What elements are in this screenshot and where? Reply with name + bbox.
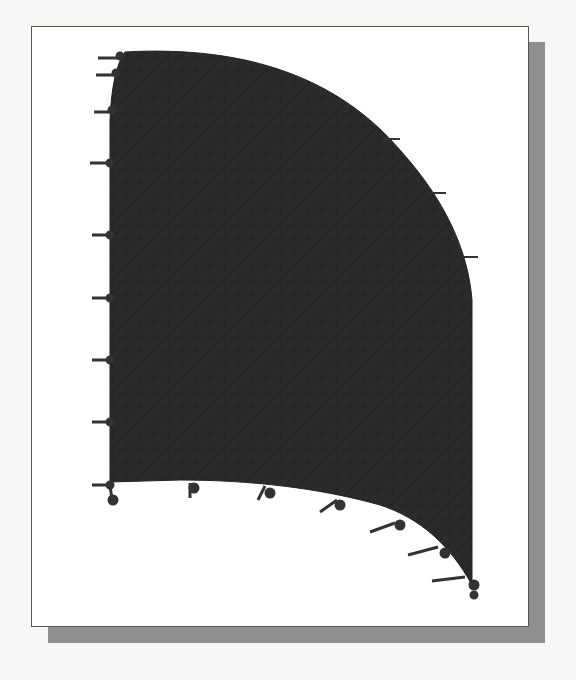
fem-mesh-figure [0,0,576,680]
mesh-region [110,51,472,585]
